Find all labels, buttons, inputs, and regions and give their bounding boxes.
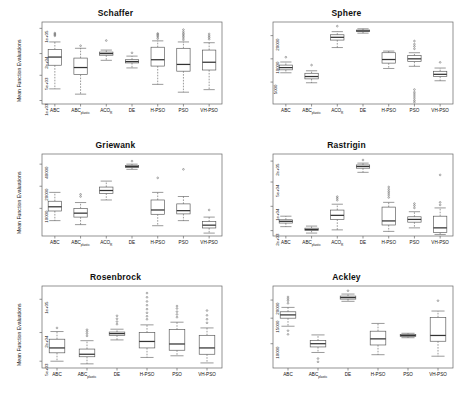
boxplot-box <box>199 310 215 363</box>
x-tick-label: H-PSO <box>140 372 155 377</box>
boxplot-box <box>139 292 155 357</box>
x-tick-label: DE <box>345 372 351 377</box>
y-axis-title: Mean Function Evaluations <box>16 303 22 366</box>
boxplot-box <box>331 196 344 230</box>
y-tick-label: 5e+04 <box>275 185 280 197</box>
x-tick-label: PSO <box>403 372 413 377</box>
boxplot-canvas <box>0 0 231 132</box>
figure-panel-grid: Schaffer1e+035e+032e+041e+05ABCABCplasti… <box>0 0 462 396</box>
boxplot-box <box>100 40 113 61</box>
y-tick-label: 10000 <box>275 61 280 73</box>
boxplot-canvas <box>0 132 231 264</box>
x-tick-label: ABC <box>50 108 59 113</box>
x-tick-label: H-PSO <box>381 240 396 245</box>
x-tick-label: VH-PSO <box>431 108 449 113</box>
x-tick-label: ACOR <box>331 240 343 247</box>
x-tick-label: ABC <box>50 240 59 245</box>
y-tick-label: 5000 <box>273 85 278 95</box>
boxplot-box <box>382 186 395 231</box>
x-tick-label: PSO <box>410 108 420 113</box>
x-tick-label: VH-PSO <box>200 240 218 245</box>
x-tick-label: VH-PSO <box>429 372 447 377</box>
y-tick-label: 1e+04 <box>275 209 280 221</box>
boxplot-box <box>151 177 164 226</box>
y-tick-label: 5e+03 <box>44 364 49 376</box>
x-tick-label: DE <box>360 108 366 113</box>
y-tick-label: 15000 <box>275 321 280 333</box>
boxplot-box <box>48 192 61 220</box>
boxplot-box <box>370 323 386 354</box>
boxplot-box <box>382 51 395 68</box>
x-tick-label: ABC <box>281 108 290 113</box>
x-tick-label: PSO <box>179 108 189 113</box>
boxplot-box <box>48 32 61 89</box>
panel-rastrigin: Rastrigin2e+031e+045e+042e+05ABCABCplast… <box>231 132 462 264</box>
boxplot-box <box>408 203 421 228</box>
x-tick-label: ABC <box>281 240 290 245</box>
x-tick-label: VH-PSO <box>431 240 449 245</box>
boxplot-box <box>125 52 138 68</box>
y-axis-title: Mean Function Evaluations <box>16 39 22 102</box>
x-tick-label: PSO <box>172 372 182 377</box>
boxplot-box <box>151 33 164 85</box>
x-tick-label: PSO <box>179 240 189 245</box>
boxplot-box <box>169 305 185 356</box>
x-tick-label: ABCplastic <box>302 108 321 115</box>
y-tick-label: 40000 <box>44 167 49 179</box>
x-tick-label: ACOR <box>100 240 112 247</box>
x-tick-label: ABCplastic <box>71 240 90 247</box>
boxplot-box <box>109 315 125 340</box>
y-tick-label: 20000 <box>275 303 280 315</box>
panel-ackley: Ackley100001500020000ABCABCplasticDEH-PS… <box>231 264 462 396</box>
boxplot-box <box>74 194 87 225</box>
panel-griewank: Griewank100002000040000ABCABCplasticACOR… <box>0 132 231 264</box>
x-tick-label: ABC <box>52 372 61 377</box>
y-tick-label: 1e+05 <box>44 31 49 43</box>
x-tick-label: DE <box>360 240 366 245</box>
y-tick-label: 2e+04 <box>44 335 49 347</box>
x-tick-label: DE <box>129 240 135 245</box>
boxplot-box <box>356 159 369 172</box>
x-tick-label: DE <box>114 372 120 377</box>
y-tick-label: 20000 <box>275 38 280 50</box>
boxplot-box <box>408 40 421 103</box>
x-tick-label: ABCplastic <box>78 372 97 379</box>
panel-rosenbrock: Rosenbrock5e+032e+041e+05ABCABCplasticDE… <box>0 264 231 396</box>
x-tick-label: ACOR <box>100 108 112 115</box>
boxplot-box <box>305 64 318 83</box>
y-tick-label: 2e+03 <box>275 233 280 245</box>
boxplot-box <box>125 160 138 169</box>
x-tick-label: ABCplastic <box>309 372 328 379</box>
boxplot-box <box>49 327 65 361</box>
x-tick-label: H-PSO <box>381 108 396 113</box>
x-tick-label: H-PSO <box>150 108 165 113</box>
boxplot-box <box>202 33 215 90</box>
y-tick-label: 10000 <box>275 346 280 358</box>
boxplot-box <box>79 329 95 364</box>
boxplot-box <box>433 62 446 81</box>
x-tick-label: H-PSO <box>371 372 386 377</box>
x-tick-label: ABCplastic <box>302 240 321 247</box>
boxplot-box <box>400 333 416 337</box>
panel-sphere: Sphere50001000020000ABCABCplasticACORDEH… <box>231 0 462 132</box>
y-tick-label: 2e+05 <box>275 164 280 176</box>
x-tick-label: VH-PSO <box>200 108 218 113</box>
x-tick-label: VH-PSO <box>198 372 216 377</box>
boxplot-box <box>305 226 318 233</box>
x-tick-label: ABC <box>283 372 292 377</box>
boxplot-box <box>280 296 296 335</box>
boxplot-box <box>177 168 190 220</box>
y-tick-label: 1e+03 <box>44 103 49 115</box>
boxplot-box <box>202 209 215 233</box>
y-tick-label: 10000 <box>44 211 49 223</box>
y-axis-title: Mean Function Evaluations <box>16 171 22 234</box>
boxplot-box <box>340 290 356 301</box>
x-tick-label: ACOR <box>331 108 343 115</box>
boxplot-box <box>430 300 446 356</box>
boxplot-box <box>100 181 113 200</box>
panel-schaffer: Schaffer1e+035e+032e+041e+05ABCABCplasti… <box>0 0 231 132</box>
boxplot-box <box>331 25 344 47</box>
y-tick-label: 5e+03 <box>44 78 49 90</box>
y-tick-label: 1e+05 <box>44 302 49 314</box>
x-tick-label: PSO <box>410 240 420 245</box>
